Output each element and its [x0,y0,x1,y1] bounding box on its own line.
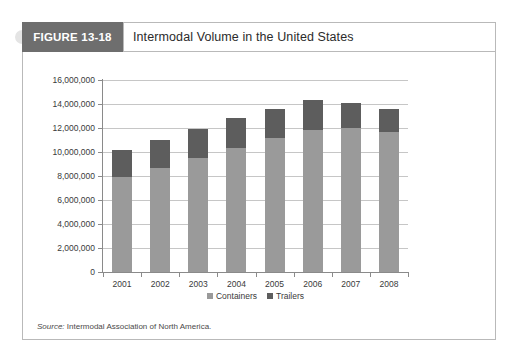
bar-segment-trailers [188,129,208,158]
figure-number-label: FIGURE 13-18 [33,31,111,43]
bar-column [226,80,246,272]
bar-segment-containers [188,158,208,272]
legend-label: Containers [216,291,257,301]
bar-segment-containers [379,132,399,272]
x-axis-tick-label: 2007 [331,279,371,289]
x-axis-tick-mark [141,273,142,277]
x-axis-tick-mark [370,273,371,277]
bar-segment-trailers [226,118,246,148]
chart-plot-area [103,80,408,272]
x-axis-tick-label: 2004 [216,279,256,289]
x-axis-tick-mark [103,273,104,277]
bar-column [303,80,323,272]
y-axis-tick-label: 16,000,000 [25,75,95,85]
bar-segment-trailers [303,100,323,130]
y-axis-tick-label: 2,000,000 [25,243,95,253]
bar-segment-trailers [150,140,170,168]
bar-segment-containers [226,148,246,272]
figure-page: FIGURE 13-18 Intermodal Volume in the Un… [0,0,517,360]
source-label: Source: [37,322,65,331]
x-axis-tick-mark [256,273,257,277]
bar-column [379,80,399,272]
legend-label: Trailers [276,291,304,301]
chart-legend: ContainersTrailers [103,290,408,302]
figure-header-divider [123,22,124,52]
x-axis-tick-label: 2005 [255,279,295,289]
x-axis-tick-mark [294,273,295,277]
y-axis-tick-label: 12,000,000 [25,123,95,133]
figure-title: Intermodal Volume in the United States [133,22,354,52]
x-axis-tick-label: 2006 [293,279,333,289]
y-axis-tick-label: 14,000,000 [25,99,95,109]
y-axis-tick-label: 8,000,000 [25,171,95,181]
legend-swatch-icon [267,293,273,299]
x-axis-tick-mark [217,273,218,277]
x-axis-tick-label: 2008 [369,279,409,289]
bar-segment-containers [112,177,132,272]
bar-segment-trailers [265,109,285,138]
bar-segment-trailers [112,150,132,178]
legend-item: Containers [207,291,257,301]
x-axis-tick-label: 2001 [102,279,142,289]
x-axis-tick-mark [408,273,409,277]
bar-column [112,80,132,272]
bar-segment-containers [341,128,361,272]
bar-column [188,80,208,272]
bar-segment-containers [303,130,323,272]
legend-swatch-icon [207,293,213,299]
source-text: Intermodal Association of North America. [65,322,212,331]
y-axis-tick-label: 4,000,000 [25,219,95,229]
y-axis-tick-label: 6,000,000 [25,195,95,205]
bar-segment-containers [265,138,285,272]
legend-item: Trailers [267,291,304,301]
bar-column [265,80,285,272]
bar-column [150,80,170,272]
x-axis-tick-mark [179,273,180,277]
bar-segment-trailers [341,103,361,128]
y-axis-tick-label: 0 [25,267,95,277]
bar-column [341,80,361,272]
bar-segment-trailers [379,109,399,132]
bar-segment-containers [150,168,170,272]
x-axis-tick-label: 2002 [140,279,180,289]
y-axis-tick-label: 10,000,000 [25,147,95,157]
source-note: Source: Intermodal Association of North … [37,322,211,331]
x-axis-tick-label: 2003 [178,279,218,289]
x-axis-tick-mark [332,273,333,277]
figure-number-tab: FIGURE 13-18 [22,22,123,52]
